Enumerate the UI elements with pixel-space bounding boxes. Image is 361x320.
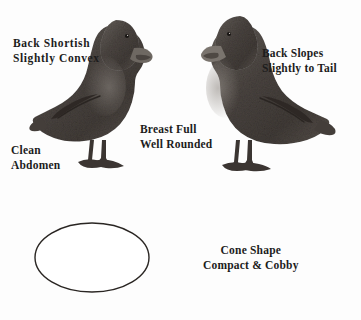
annotation-cone-shape-line2: Compact & Cobby [203,258,299,273]
duck-left-legs [78,140,124,168]
annotation-clean-abdomen-line2: Abdomen [11,158,60,173]
annotation-breast-full: Breast Full Well Rounded [140,122,212,152]
annotation-back-shortish: Back Shortish Slightly Convex [13,36,100,66]
duck-right-eye [227,32,231,36]
annotation-cone-shape-line1: Cone Shape [203,243,299,258]
duck-conformation-figure: Back Shortish Slightly Convex Back Slope… [0,0,361,320]
annotation-back-shortish-line2: Slightly Convex [13,51,100,66]
annotation-breast-full-line1: Breast Full [140,122,212,137]
annotation-back-slopes-line2: Slightly to Tail [262,61,337,76]
annotation-back-slopes-line1: Back Slopes [262,46,337,61]
annotation-back-slopes: Back Slopes Slightly to Tail [262,46,337,76]
duck-left-eye-highlight [127,35,128,36]
annotation-clean-abdomen-line1: Clean [11,143,60,158]
duck-right-breast-highlight [206,58,246,118]
duck-right-eye-highlight [229,33,230,34]
annotation-breast-full-line2: Well Rounded [140,137,212,152]
oval-body-outline-illustration [33,221,151,294]
duck-facing-left-illustration [188,12,340,180]
oval-outline-path [35,223,149,292]
duck-left-eye [125,34,129,38]
annotation-back-shortish-line1: Back Shortish [13,36,100,51]
duck-right-legs [222,140,271,171]
annotation-cone-shape: Cone Shape Compact & Cobby [203,243,299,273]
annotation-clean-abdomen: Clean Abdomen [11,143,60,173]
